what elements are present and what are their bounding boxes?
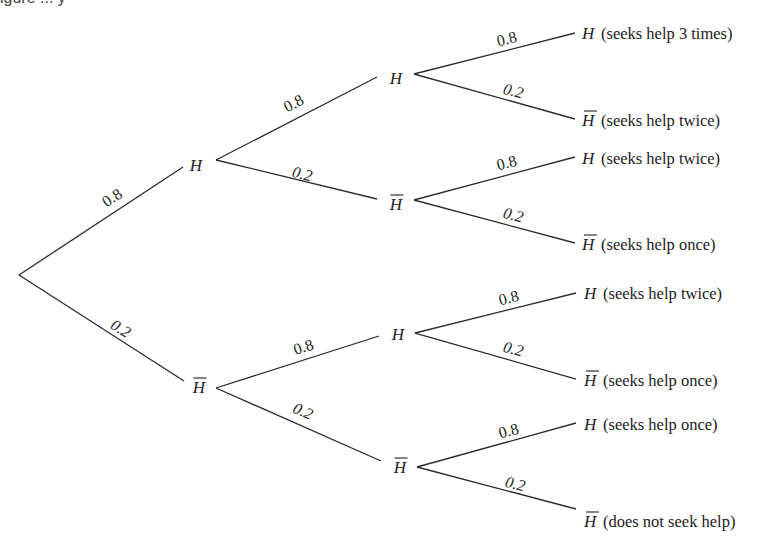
h-symbol: H [583,284,598,303]
leaf-symbol: H [581,149,596,168]
leaf-description: (does not seek help) [603,512,735,531]
leaf-description: (seeks help twice) [601,149,720,168]
branch-probability-label: 0.2 [502,338,526,360]
h-bar-symbol: H [581,235,596,254]
tree-leaves: H(seeks help 3 times)H(seeks help twice)… [581,24,735,531]
branch-probability-label: 0.2 [502,204,526,226]
tree-node-l1-hb: H [192,378,207,397]
branch-probability-label: 0.8 [497,420,521,442]
tree-node-l1-h: H [189,156,204,175]
h-symbol: H [389,69,404,88]
h-symbol: H [189,156,204,175]
tree-branch [19,275,184,381]
leaf-symbol: H [583,284,598,303]
tree-node-l2-h-hb: H [389,195,404,214]
tree-branch [415,293,576,333]
tree-branch [414,200,575,243]
leaf-symbol: H [583,512,599,531]
tree-node-l2-h-h: H [389,69,404,88]
tree-node-l2-hb-hb: H [393,458,408,477]
tree-branch [417,467,576,509]
branch-probability-label: 0.8 [281,91,307,115]
leaf-description: (seeks help once) [603,371,718,390]
branch-probability-label: 0.2 [291,163,315,184]
tree-branch [414,157,575,200]
leaf-outcome: H(seeks help once) [583,415,718,434]
leaf-description: (seeks help once) [603,415,718,434]
branch-probability-label: 0.2 [291,399,316,423]
h-symbol: H [581,24,596,43]
branch-probability-label: 0.8 [99,185,125,210]
leaf-symbol: H [581,235,597,254]
h-symbol: H [581,149,596,168]
branch-probability-label: 0.8 [495,152,519,174]
tree-node-l2-hb-h: H [391,325,406,344]
branch-probability-label: 0.2 [502,80,526,102]
leaf-outcome: H(does not seek help) [583,512,735,531]
tree-branch [19,167,183,275]
leaf-description: (seeks help 3 times) [601,24,733,43]
tree-branch [417,423,576,467]
leaf-description: (seeks help twice) [601,111,720,130]
tree-branch [414,74,575,119]
leaf-outcome: H(seeks help once) [581,235,716,254]
tree-branch [216,77,377,160]
h-bar-symbol: H [581,111,596,130]
leaf-outcome: H(seeks help 3 times) [581,24,733,43]
leaf-outcome: H(seeks help twice) [583,284,722,303]
branch-probability-label: 0.8 [497,287,521,308]
h-bar-symbol: H [389,195,404,214]
leaf-symbol: H [581,24,596,43]
probability-tree-diagram: 0.80.20.80.20.80.20.80.20.80.20.80.20.80… [0,0,784,542]
branch-probability-label: 0.2 [108,316,134,341]
leaf-symbol: H [583,371,599,390]
h-bar-symbol: H [583,371,598,390]
leaf-outcome: H(seeks help twice) [581,149,720,168]
leaf-description: (seeks help once) [601,235,716,254]
leaf-symbol: H [583,415,598,434]
leaf-outcome: H(seeks help twice) [581,111,720,130]
leaf-description: (seeks help twice) [603,284,722,303]
h-symbol: H [391,325,406,344]
tree-branch [415,333,576,379]
h-symbol: H [583,415,598,434]
branch-probability-label: 0.8 [495,28,519,49]
leaf-outcome: H(seeks help once) [583,371,718,390]
tree-branch [414,33,575,74]
h-bar-symbol: H [192,378,207,397]
leaf-symbol: H [581,111,597,130]
h-bar-symbol: H [393,458,408,477]
h-bar-symbol: H [583,512,598,531]
edge-probability-labels: 0.80.20.80.20.80.20.80.20.80.20.80.20.80… [99,28,527,494]
branch-probability-label: 0.8 [291,336,315,358]
